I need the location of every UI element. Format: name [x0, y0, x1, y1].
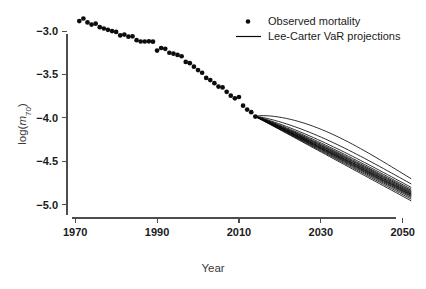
observed-data-point: [233, 96, 238, 101]
observed-data-point: [179, 54, 184, 59]
observed-data-point: [192, 64, 197, 69]
observed-data-point: [89, 22, 94, 27]
mortality-projection-chart: −3.0−3.5−4.0−4.5−5.0 1970199020102030205…: [0, 0, 426, 289]
observed-data-point: [138, 39, 143, 44]
y-tick-label: −3.5: [36, 68, 58, 80]
observed-data-point: [167, 50, 172, 55]
chart-legend: Observed mortality Lee-Carter VaR projec…: [236, 15, 401, 42]
observed-data-point: [122, 32, 127, 37]
observed-data-point: [216, 84, 221, 89]
observed-data-point: [97, 25, 102, 30]
y-tick-label: −5.0: [36, 199, 58, 211]
observed-data-point: [224, 89, 229, 94]
observed-data-point: [77, 19, 82, 24]
y-tick-label: −4.0: [36, 112, 58, 124]
observed-data-point: [187, 61, 192, 66]
x-axis-ticks: 19701990201020302050: [63, 218, 415, 238]
observed-points-group: [77, 16, 258, 119]
observed-data-point: [200, 70, 205, 75]
observed-data-point: [163, 47, 168, 52]
y-axis-ticks: −3.0−3.5−4.0−4.5−5.0: [36, 25, 67, 211]
observed-data-point: [175, 53, 180, 58]
x-tick-label: 2030: [309, 226, 333, 238]
observed-data-point: [126, 34, 131, 39]
y-tick-label: −4.5: [36, 155, 58, 167]
observed-data-point: [241, 103, 246, 108]
x-tick-label: 1990: [145, 226, 169, 238]
x-tick-label: 2050: [390, 226, 414, 238]
svg-text:log(m70): log(m70): [16, 103, 33, 145]
observed-data-point: [118, 33, 123, 38]
observed-data-point: [249, 110, 254, 115]
observed-data-point: [245, 107, 250, 112]
observed-data-point: [159, 46, 164, 51]
chart-figure: −3.0−3.5−4.0−4.5−5.0 1970199020102030205…: [0, 0, 426, 289]
observed-data-point: [183, 60, 188, 65]
observed-data-point: [151, 39, 156, 44]
x-tick-label: 2010: [227, 226, 251, 238]
y-tick-label: −3.0: [36, 25, 58, 37]
observed-data-point: [142, 39, 147, 44]
observed-data-point: [110, 29, 115, 34]
observed-data-point: [114, 30, 119, 35]
observed-data-point: [228, 93, 233, 98]
y-axis-title-suffix: ): [16, 103, 28, 107]
observed-data-point: [102, 26, 107, 31]
observed-data-point: [93, 21, 98, 26]
observed-data-point: [171, 51, 176, 56]
observed-data-point: [147, 39, 152, 44]
y-axis-title: log(m70): [16, 103, 33, 145]
observed-data-point: [212, 81, 217, 86]
projection-path: [255, 117, 411, 201]
observed-data-point: [130, 34, 135, 39]
legend-label-observed: Observed mortality: [268, 15, 361, 27]
legend-label-projections: Lee-Carter VaR projections: [268, 30, 401, 42]
projection-lines-group: [255, 116, 411, 201]
y-axis-title-symbol: m: [16, 116, 28, 126]
observed-data-point: [106, 27, 111, 32]
legend-point-marker: [246, 19, 251, 24]
x-axis-title: Year: [201, 262, 224, 274]
y-axis-title-prefix: log(: [16, 125, 28, 144]
observed-data-point: [81, 16, 86, 21]
observed-data-point: [208, 78, 213, 83]
observed-data-point: [155, 48, 160, 53]
observed-data-point: [237, 95, 242, 100]
observed-data-point: [220, 85, 225, 90]
observed-data-point: [196, 68, 201, 73]
observed-data-point: [204, 76, 209, 81]
observed-data-point: [134, 38, 139, 43]
observed-data-point: [253, 114, 258, 119]
observed-data-point: [85, 20, 90, 25]
x-tick-label: 1970: [63, 226, 87, 238]
